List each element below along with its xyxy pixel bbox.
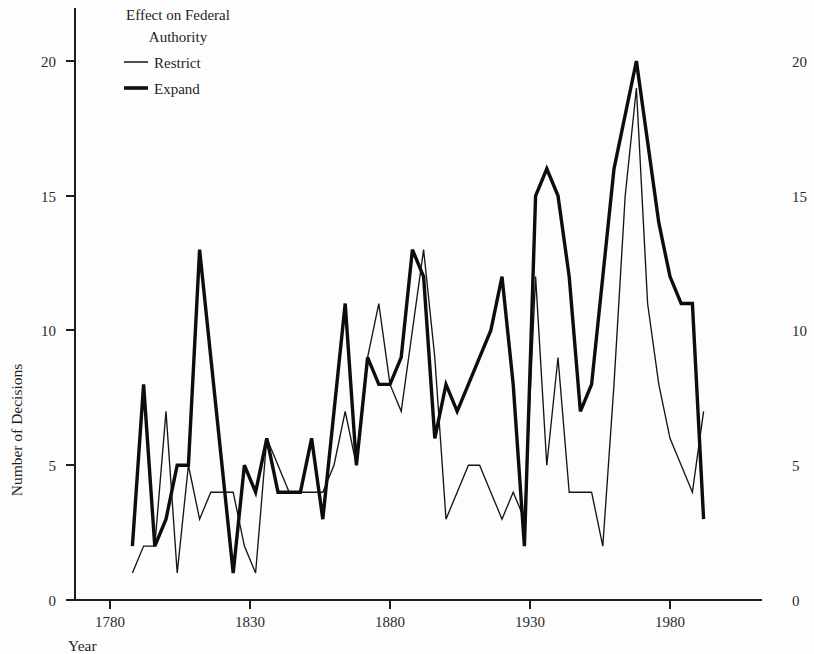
line-chart: 0 5 10 15 20 0 5 10 15 20 1780 1830 1880… [0,0,814,654]
legend: Effect on Federal Authority Restrict Exp… [124,7,230,97]
y-right-label-20: 20 [792,54,807,70]
legend-title-line-2: Authority [149,29,208,45]
y-right-label-5: 5 [792,458,800,474]
x-tick-label-1880: 1880 [375,614,405,630]
x-axis-ticks: 1780 1830 1880 1930 1980 [95,600,685,630]
y-tick-label-10: 10 [41,323,56,339]
y-tick-label-15: 15 [41,189,56,205]
y-axis-title: Number of Decisions [8,364,25,497]
y-axis-ticks-left: 0 5 10 15 20 [41,54,75,609]
y-right-label-10: 10 [792,323,807,339]
series-line-restrict [132,88,703,573]
x-axis-title: Year [68,637,97,654]
x-tick-label-1930: 1930 [515,614,545,630]
x-tick-label-1980: 1980 [655,614,685,630]
legend-label-expand: Expand [154,81,200,97]
y-tick-label-5: 5 [49,458,57,474]
chart-figure: 0 5 10 15 20 0 5 10 15 20 1780 1830 1880… [0,0,814,654]
y-tick-label-0: 0 [49,593,57,609]
y-axis-labels-right: 0 5 10 15 20 [792,54,807,609]
legend-label-restrict: Restrict [154,55,201,71]
x-tick-label-1830: 1830 [235,614,265,630]
y-tick-label-20: 20 [41,54,56,70]
x-tick-label-1780: 1780 [95,614,125,630]
y-right-label-15: 15 [792,189,807,205]
y-right-label-0: 0 [792,593,800,609]
legend-title-line-1: Effect on Federal [126,7,230,23]
